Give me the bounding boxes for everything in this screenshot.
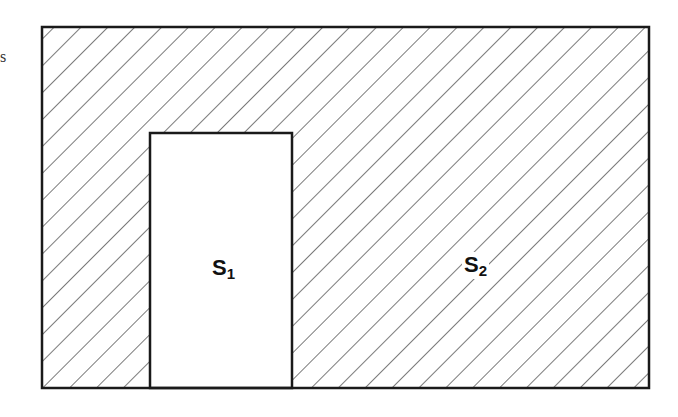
label-s2: S2 [462, 252, 489, 279]
region-s2 [42, 27, 649, 388]
label-s1: S1 [212, 255, 235, 282]
set-diagram [0, 0, 678, 417]
